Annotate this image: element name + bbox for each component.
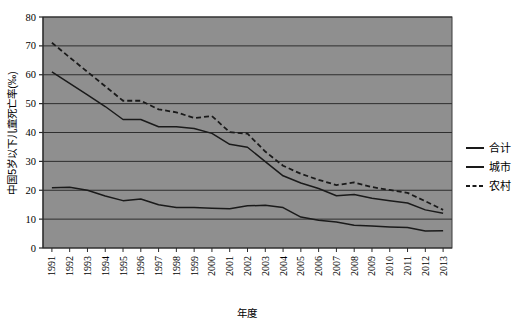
chart-legend: 合计城市农村 <box>466 141 511 192</box>
y-axis-tick-labels: 01020304050607080 <box>26 12 37 254</box>
x-axis-tick-label: 1991 <box>46 256 57 276</box>
x-axis-tick-label: 2004 <box>278 256 289 276</box>
x-axis-tick-labels: 1991199219931994199519961997199819992000… <box>46 256 448 276</box>
legend-label-农村: 农村 <box>489 179 511 192</box>
x-axis-tick-label: 2001 <box>224 256 235 276</box>
y-axis-tick-label: 60 <box>26 69 37 80</box>
x-axis-tick-label: 1996 <box>135 256 146 276</box>
y-axis-tick-label: 80 <box>26 12 37 23</box>
legend-label-合计: 合计 <box>489 141 511 154</box>
x-axis-tick-label: 1999 <box>189 256 200 276</box>
x-axis-tick-label: 2002 <box>242 256 253 276</box>
x-axis-tick-label: 2010 <box>384 256 395 276</box>
x-axis-tick-label: 2007 <box>331 256 342 276</box>
x-axis-tick-label: 2008 <box>349 256 360 276</box>
x-axis-tick-label: 1992 <box>64 256 75 276</box>
x-axis-tick-label: 2011 <box>402 256 413 276</box>
x-axis-tick-label: 1997 <box>153 256 164 276</box>
x-axis-tick-label: 1995 <box>118 256 129 276</box>
y-axis-tick-label: 0 <box>31 243 36 254</box>
x-axis-tick-label: 2013 <box>438 256 449 276</box>
x-axis-tick-label: 1993 <box>82 256 93 276</box>
y-axis-tick-label: 40 <box>26 127 37 138</box>
x-axis-tick-label: 2003 <box>260 256 271 276</box>
y-axis-tick-label: 50 <box>26 98 37 109</box>
x-axis-tick-label: 1998 <box>171 256 182 276</box>
x-axis-tick-label: 1994 <box>100 256 111 276</box>
legend-label-城市: 城市 <box>489 160 511 173</box>
chart-container: 01020304050607080 1991199219931994199519… <box>0 0 524 323</box>
y-axis-tick-label: 10 <box>26 214 37 225</box>
line-chart: 01020304050607080 1991199219931994199519… <box>0 0 524 323</box>
y-axis-tick-label: 20 <box>26 185 37 196</box>
x-axis-tick-label: 2006 <box>313 256 324 276</box>
x-axis-tick-label: 2012 <box>420 256 431 276</box>
y-axis-tick-label: 70 <box>26 40 37 51</box>
x-axis-tick-label: 2005 <box>295 256 306 276</box>
x-axis-tick-marks <box>52 248 443 252</box>
x-axis-tick-label: 2009 <box>366 256 377 276</box>
y-axis-title: 中国5岁以下儿童死亡率(‰) <box>6 71 18 194</box>
x-axis-tick-label: 2000 <box>206 256 217 276</box>
x-axis-title: 年度 <box>237 307 258 319</box>
y-axis-tick-label: 30 <box>26 156 37 167</box>
